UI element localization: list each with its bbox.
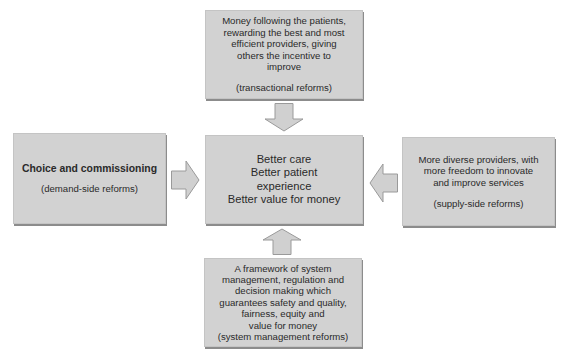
box-text-line: management, regulation and bbox=[222, 274, 344, 285]
box-text-line: Better value for money bbox=[228, 193, 341, 206]
box-title: Choice and commissioning bbox=[22, 163, 157, 174]
box-text-line: more freedom to innovate bbox=[424, 165, 533, 176]
box-text-line: rewarding the best and most bbox=[223, 27, 344, 38]
box-text-line: others the incentive to bbox=[237, 50, 331, 61]
outcomes-box: Better care Better patient experience Be… bbox=[205, 135, 363, 224]
box-text-line: Better patient bbox=[251, 166, 318, 179]
box-text-line: Better care bbox=[257, 153, 312, 166]
box-category-label: (demand-side reforms) bbox=[41, 183, 138, 194]
demand-side-reforms-box: Choice and commissioning (demand-side re… bbox=[13, 133, 166, 224]
box-text-line: guarantees safety and quality, bbox=[219, 297, 346, 308]
arrow-up-icon bbox=[262, 228, 302, 255]
box-text-line: More diverse providers, with bbox=[419, 154, 539, 165]
box-text-line: decision making which bbox=[235, 285, 331, 296]
box-text-line: A framework of system bbox=[234, 263, 331, 274]
arrow-down-icon bbox=[264, 103, 304, 132]
box-text-line: efficient providers, giving bbox=[231, 38, 336, 49]
box-text-line: fairness, equity and bbox=[241, 308, 324, 319]
box-text-line: experience bbox=[257, 180, 312, 193]
box-category-label: (supply-side reforms) bbox=[433, 198, 523, 209]
arrow-left-icon bbox=[369, 163, 398, 203]
system-management-reforms-box: A framework of system management, regula… bbox=[204, 258, 362, 347]
transactional-reforms-box: Money following the patients, rewarding … bbox=[205, 10, 363, 99]
box-category-label: (system management reforms) bbox=[218, 331, 349, 342]
box-text-line: improve bbox=[267, 61, 301, 72]
box-text-line: and improve services bbox=[433, 177, 524, 188]
box-category-label: (transactional reforms) bbox=[236, 82, 332, 93]
box-text-line: value for money bbox=[249, 320, 317, 331]
supply-side-reforms-box: More diverse providers, with more freedo… bbox=[402, 137, 555, 226]
arrow-right-icon bbox=[171, 160, 200, 200]
box-text-line: Money following the patients, bbox=[222, 15, 346, 26]
